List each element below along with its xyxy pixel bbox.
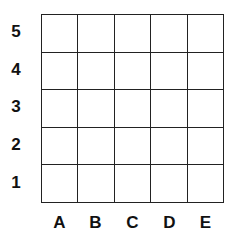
col-label-A: A — [41, 213, 78, 233]
cell-C4 — [115, 53, 151, 91]
row-label-1: 1 — [4, 173, 28, 193]
cell-D3 — [151, 90, 187, 128]
cell-D5 — [151, 15, 187, 53]
cell-B1 — [78, 165, 114, 203]
row-label-5: 5 — [4, 22, 28, 42]
cell-E3 — [188, 90, 224, 128]
cell-D2 — [151, 128, 187, 166]
cell-B5 — [78, 15, 114, 53]
col-label-D: D — [151, 213, 188, 233]
row-label-4: 4 — [4, 60, 28, 80]
cell-B2 — [78, 128, 114, 166]
cell-C1 — [115, 165, 151, 203]
cell-A1 — [42, 165, 78, 203]
col-label-B: B — [77, 213, 114, 233]
cell-E4 — [188, 53, 224, 91]
cell-B4 — [78, 53, 114, 91]
row-label-2: 2 — [4, 135, 28, 155]
cell-B3 — [78, 90, 114, 128]
cell-A5 — [42, 15, 78, 53]
cell-A2 — [42, 128, 78, 166]
col-label-E: E — [187, 213, 224, 233]
cell-A3 — [42, 90, 78, 128]
cell-E2 — [188, 128, 224, 166]
cell-D4 — [151, 53, 187, 91]
cell-E1 — [188, 165, 224, 203]
row-label-3: 3 — [4, 97, 28, 117]
cell-C5 — [115, 15, 151, 53]
cell-C2 — [115, 128, 151, 166]
cell-E5 — [188, 15, 224, 53]
coordinate-grid — [41, 14, 224, 203]
cell-C3 — [115, 90, 151, 128]
col-label-C: C — [114, 213, 151, 233]
cell-A4 — [42, 53, 78, 91]
cell-D1 — [151, 165, 187, 203]
